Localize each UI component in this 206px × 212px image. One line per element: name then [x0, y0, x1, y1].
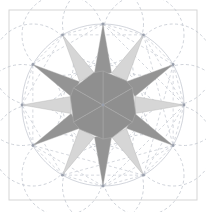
node-marker-11 [61, 33, 64, 36]
node-marker-3 [183, 104, 186, 107]
node-marker-0 [102, 23, 105, 26]
node-marker-9 [21, 104, 24, 107]
node-marker-7 [61, 174, 64, 177]
node-marker-center [102, 104, 105, 107]
node-marker-4 [172, 144, 175, 147]
node-marker-5 [142, 174, 145, 177]
node-marker-1 [142, 33, 145, 36]
node-marker-8 [31, 144, 34, 147]
node-marker-6 [102, 185, 105, 188]
geometric-construction-figure: Twelve-pointed star construction [0, 0, 206, 212]
node-marker-2 [172, 63, 175, 66]
node-marker-10 [31, 63, 34, 66]
